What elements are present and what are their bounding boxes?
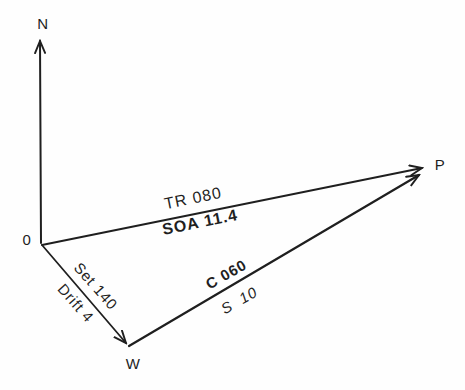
speed-of-advance-label: SOA 11.4 xyxy=(161,206,240,238)
ship-speed-label: S 10 xyxy=(218,283,260,317)
course-direction-label: C 060 xyxy=(203,256,250,292)
destination-label: P xyxy=(435,156,446,173)
north-axis-arrow xyxy=(40,41,41,243)
origin-label: 0 xyxy=(23,231,32,248)
track-direction-label: TR 080 xyxy=(163,184,224,212)
navigation-vector-diagram: N 0 P W TR 080 SOA 11.4 Set 140 Drift 4 … xyxy=(0,0,465,390)
north-label: N xyxy=(37,15,48,32)
water-point-label: W xyxy=(126,355,141,372)
diagram-svg: N 0 P W TR 080 SOA 11.4 Set 140 Drift 4 … xyxy=(0,0,465,390)
